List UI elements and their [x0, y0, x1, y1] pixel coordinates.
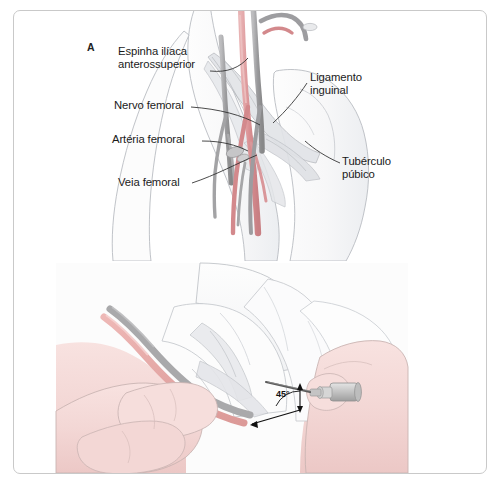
label-ligamento-inguinal: Ligamento inguinal	[310, 71, 400, 98]
label-tuberculo-pubico: Tubérculo púbico	[342, 155, 422, 182]
label-espinha-iliaca: Espinha ilíaca anterossuperior	[118, 45, 218, 72]
syringe-hand	[305, 341, 408, 473]
label-veia-femoral: Veia femoral	[118, 176, 204, 189]
angle-label: 45°	[276, 389, 290, 399]
panel-b: B	[14, 261, 487, 474]
label-nervo-femoral: Nervo femoral	[114, 99, 204, 112]
label-arteria-femoral: Artéria femoral	[112, 133, 204, 146]
figure-frame: A	[13, 10, 487, 474]
panel-a: A	[14, 11, 487, 261]
panel-a-illustration	[14, 11, 487, 261]
panel-b-illustration	[14, 261, 487, 474]
iliac-branch	[261, 15, 317, 39]
